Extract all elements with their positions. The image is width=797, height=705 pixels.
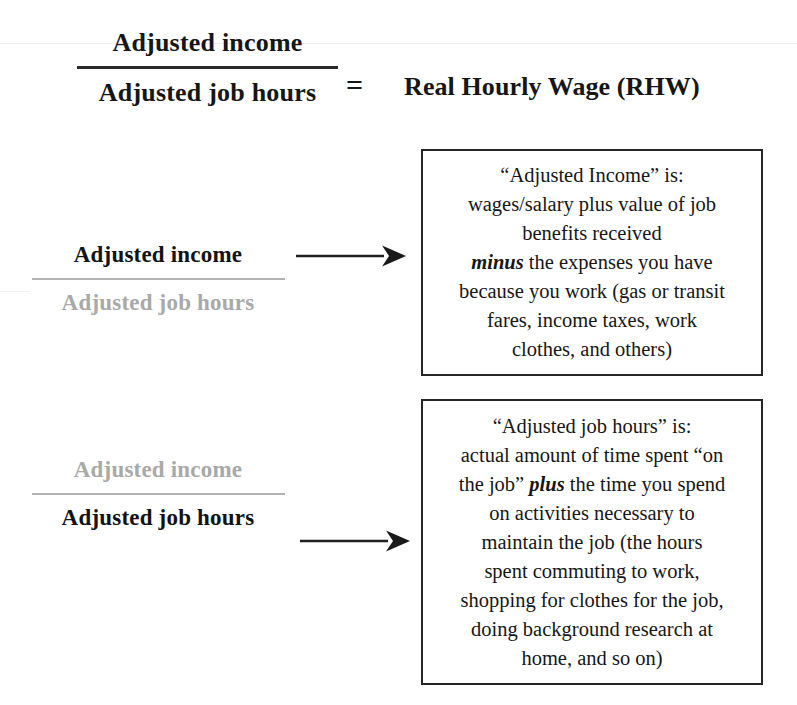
fraction-adjusted-income: Adjusted income Adjusted job hours	[0, 238, 318, 320]
top-equation-fraction: Adjusted income Adjusted job hours	[60, 24, 355, 112]
top-equation-fraction-bar	[77, 66, 338, 69]
fraction-2-denominator: Adjusted job hours	[0, 501, 318, 535]
fraction-2-bar	[32, 493, 285, 495]
diagram-canvas: Adjusted income Adjusted job hours = Rea…	[0, 0, 797, 705]
top-equation-denominator: Adjusted job hours	[60, 70, 355, 112]
definition-box-1-text: “Adjusted Income” is:wages/salary plus v…	[449, 161, 735, 364]
top-equation: Adjusted income Adjusted job hours = Rea…	[0, 24, 797, 112]
definition-2-part-b: the time you spendon activities necessar…	[460, 473, 725, 669]
definition-1-emphasis-word: minus	[471, 251, 523, 273]
real-hourly-wage-label: Real Hourly Wage (RHW)	[404, 72, 700, 102]
definition-box-adjusted-job-hours: “Adjusted job hours” is:actual amount of…	[421, 399, 763, 685]
definition-1-part-a: “Adjusted Income” is:wages/salary plus v…	[468, 164, 716, 244]
fraction-1-bar	[32, 278, 285, 280]
definition-2-emphasis-word: plus	[529, 473, 564, 495]
definition-box-adjusted-income: “Adjusted Income” is:wages/salary plus v…	[421, 149, 763, 376]
fraction-1-denominator: Adjusted job hours	[0, 286, 318, 320]
right-arrow-icon-1	[296, 243, 408, 269]
right-arrow-icon-2	[300, 528, 412, 554]
fraction-adjusted-job-hours: Adjusted income Adjusted job hours	[0, 453, 318, 535]
top-equation-numerator: Adjusted income	[60, 24, 355, 64]
fraction-2-numerator: Adjusted income	[0, 453, 318, 487]
definition-box-2-text: “Adjusted job hours” is:actual amount of…	[449, 412, 735, 673]
fraction-1-numerator: Adjusted income	[0, 238, 318, 272]
equals-sign: =	[346, 70, 363, 100]
